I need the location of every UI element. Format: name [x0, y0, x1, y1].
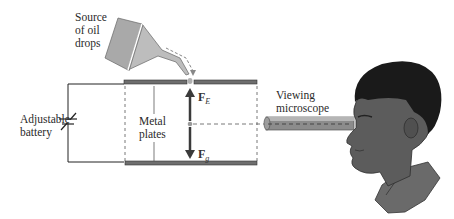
- oil-drop: [188, 78, 193, 84]
- observer-head-illustration: [347, 61, 442, 213]
- gravity-force-label: Fg: [198, 147, 209, 163]
- top-plate-left: [124, 80, 187, 84]
- plates-label: Metal plates: [139, 114, 166, 142]
- top-plate-right: [194, 80, 257, 84]
- gravity-force-arrow: [185, 127, 195, 159]
- oil-drop-diagram: [0, 0, 454, 219]
- viewing-microscope-icon: [264, 117, 354, 130]
- oil-funnel-icon: [105, 18, 189, 75]
- observed-oil-drop: [188, 122, 193, 127]
- electric-force-arrow: [185, 88, 195, 121]
- bottom-plate: [125, 161, 257, 165]
- battery-label: Adjustable battery: [20, 113, 70, 139]
- source-label: Source of oil drops: [75, 11, 107, 50]
- circuit-wire: [68, 84, 124, 162]
- microscope-label: Viewing microscope: [276, 89, 329, 115]
- electric-force-label: FE: [198, 90, 210, 106]
